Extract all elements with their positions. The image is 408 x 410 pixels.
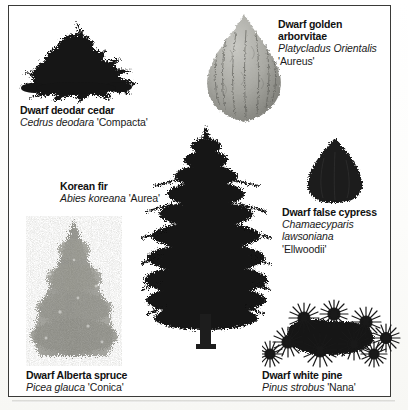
specimen-dwarf-false-cypress	[298, 136, 372, 206]
common-name-dwarf-golden-arborvitae-line2: arborvitae	[278, 30, 402, 42]
scientific-name-dwarf-deodar-cedar: Cedrus deodara 'Compacta'	[20, 116, 148, 128]
common-name-dwarf-golden-arborvitae-line1: Dwarf golden	[278, 18, 402, 30]
genus-species: Pinus strobus	[262, 381, 324, 393]
scientific-name-dwarf-alberta-spruce: Picea glauca 'Conica'	[26, 381, 127, 393]
caption-dwarf-white-pine: Dwarf white pine Pinus strobus 'Nana'	[262, 369, 356, 393]
caption-dwarf-alberta-spruce: Dwarf Alberta spruce Picea glauca 'Conic…	[26, 369, 127, 393]
common-name-dwarf-false-cypress: Dwarf false cypress	[282, 206, 400, 218]
cultivar: 'Conica'	[88, 381, 124, 393]
caption-dwarf-deodar-cedar: Dwarf deodar cedar Cedrus deodara 'Compa…	[20, 104, 148, 128]
scientific-name-korean-fir: Abies koreana 'Aurea'	[60, 192, 160, 204]
genus-species: Cedrus deodara	[20, 116, 94, 128]
common-name-dwarf-alberta-spruce: Dwarf Alberta spruce	[26, 369, 127, 381]
page-fold-shadow	[12, 400, 395, 403]
common-name-dwarf-deodar-cedar: Dwarf deodar cedar	[20, 104, 148, 116]
genus-species-dwarf-golden-arborvitae: Platycladus Orientalis	[278, 42, 402, 54]
genus-species: Picea glauca	[26, 381, 85, 393]
specimen-dwarf-white-pine	[262, 298, 402, 368]
genus-species: Abies koreana	[60, 192, 126, 204]
scientific-name-dwarf-white-pine: Pinus strobus 'Nana'	[262, 381, 356, 393]
common-name-korean-fir: Korean fir	[60, 180, 160, 192]
caption-dwarf-golden-arborvitae: Dwarf golden arborvitae Platycladus Orie…	[278, 18, 402, 67]
specimen-dwarf-deodar-cedar	[14, 14, 144, 106]
cultivar: 'Aurea'	[129, 192, 160, 204]
specimen-dwarf-alberta-spruce	[16, 216, 132, 366]
cultivar: 'Nana'	[327, 381, 356, 393]
illustration-plate: Dwarf deodar cedar Cedrus deodara 'Compa…	[0, 0, 408, 410]
genus-species-dwarf-false-cypress-line2: lawsoniana	[282, 230, 400, 242]
genus-species-dwarf-false-cypress-line1: Chamaecyparis	[282, 218, 400, 230]
specimen-korean-fir	[140, 124, 272, 356]
cultivar-dwarf-golden-arborvitae: 'Aureus'	[278, 55, 402, 67]
caption-korean-fir: Korean fir Abies koreana 'Aurea'	[60, 180, 160, 204]
common-name-dwarf-white-pine: Dwarf white pine	[262, 369, 356, 381]
caption-dwarf-false-cypress: Dwarf false cypress Chamaecyparis lawson…	[282, 206, 400, 255]
cultivar-dwarf-false-cypress: 'Ellwoodii'	[282, 243, 400, 255]
